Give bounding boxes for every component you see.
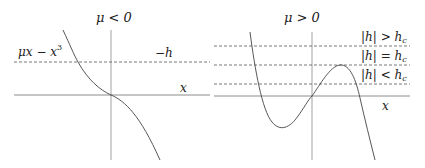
- x-axis-label: x: [382, 99, 389, 113]
- panel-mu-positive: μ > 0 |h| > hc |h| = hc |h| < hc x: [214, 10, 410, 160]
- bifurcation-diagram: μ < 0 μx − x3 −h x μ > 0 |h| > hc |h| = …: [0, 0, 425, 168]
- panel-title: μ > 0: [284, 10, 320, 25]
- label-h-greater-hc: |h| > hc: [361, 30, 407, 45]
- panel-mu-negative: μ < 0 μx − x3 −h x: [14, 10, 210, 160]
- label-h-equal-hc: |h| = hc: [361, 49, 407, 64]
- panel-title: μ < 0: [96, 10, 132, 25]
- x-axis-label: x: [180, 81, 187, 95]
- curve-label: μx − x3: [18, 43, 62, 59]
- dashed-line-label: −h: [155, 46, 173, 60]
- label-h-less-hc: |h| < hc: [361, 68, 407, 83]
